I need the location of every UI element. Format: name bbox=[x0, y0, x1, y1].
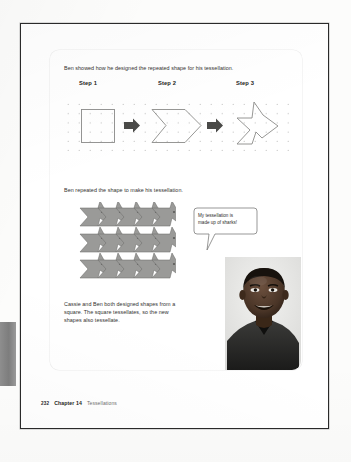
step-label-1: Step 1 bbox=[79, 80, 97, 86]
speech-bubble: My tessellation is made up of sharks! bbox=[193, 207, 258, 251]
conclusion-paragraph: Cassie and Ben both designed shapes from… bbox=[64, 300, 186, 325]
footer-topic-label: Tessellations bbox=[87, 400, 117, 406]
repeat-paragraph: Ben repeated the shape to make his tesse… bbox=[64, 186, 294, 194]
footer-chapter-label: Chapter 14 bbox=[54, 400, 82, 406]
content-card: Ben showed how he designed the repeated … bbox=[50, 50, 302, 370]
book-page: Ben showed how he designed the repeated … bbox=[20, 23, 329, 429]
intro-paragraph: Ben showed how he designed the repeated … bbox=[64, 64, 294, 72]
boy-photo bbox=[225, 257, 301, 370]
step-label-2: Step 2 bbox=[158, 80, 176, 86]
footer-page-number: 232 bbox=[41, 401, 49, 406]
dot-grid bbox=[58, 96, 296, 158]
shark-tessellation bbox=[78, 202, 176, 290]
step-label-3: Step 3 bbox=[236, 80, 254, 86]
steps-diagram bbox=[56, 94, 298, 160]
speech-bubble-text: My tessellation is made up of sharks! bbox=[198, 213, 252, 226]
left-edge-tab bbox=[0, 322, 16, 386]
page-footer: 232 Chapter 14 Tessellations bbox=[41, 400, 117, 406]
